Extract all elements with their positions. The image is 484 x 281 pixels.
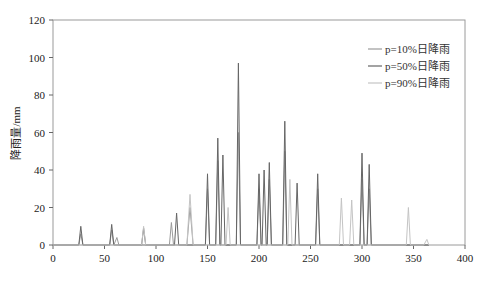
- x-tick-label: 50: [99, 252, 111, 264]
- x-axis: 050100150200250300350400: [50, 245, 474, 264]
- y-tick-label: 100: [29, 52, 46, 64]
- x-tick-label: 250: [302, 252, 319, 264]
- legend-label: p=50%日降雨: [385, 59, 450, 72]
- rainfall-line-chart: 020406080100120 050100150200250300350400…: [0, 0, 484, 281]
- y-tick-label: 40: [34, 164, 46, 176]
- y-tick-label: 80: [34, 89, 46, 101]
- x-tick-label: 200: [251, 252, 268, 264]
- x-tick-label: 150: [199, 252, 216, 264]
- y-axis-title: 降雨量/mm: [9, 106, 22, 160]
- legend-label: p=10%日降雨: [385, 42, 450, 55]
- series-line-2: [53, 179, 429, 245]
- x-tick-label: 0: [50, 252, 56, 264]
- x-tick-label: 100: [148, 252, 165, 264]
- series-layer: [53, 63, 429, 245]
- x-tick-label: 300: [354, 252, 371, 264]
- series-line-0: [53, 133, 429, 246]
- x-tick-label: 350: [405, 252, 422, 264]
- y-tick-label: 120: [29, 14, 46, 26]
- y-tick-label: 20: [34, 202, 46, 214]
- legend-label: p=90%日降雨: [385, 76, 450, 89]
- y-tick-label: 60: [34, 127, 46, 139]
- x-tick-label: 400: [457, 252, 474, 264]
- legend: p=10%日降雨p=50%日降雨p=90%日降雨: [368, 42, 450, 89]
- y-axis: 020406080100120: [29, 14, 54, 251]
- y-tick-label: 0: [40, 239, 46, 251]
- series-line-1: [53, 63, 429, 245]
